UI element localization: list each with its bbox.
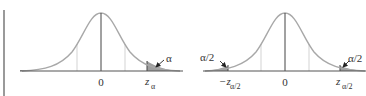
center-label: 0 <box>282 76 288 88</box>
z-alpha-label: z <box>144 75 150 87</box>
normal-distribution-figures: 0 z α α 0 −z α/2 z α/2 α/2 α/2 <box>0 0 366 96</box>
two-tailed-normal-curve: 0 −z α/2 z α/2 α/2 α/2 <box>200 13 366 91</box>
pos-z-label: z <box>335 75 341 87</box>
right-area-label: α/2 <box>348 52 362 64</box>
center-label: 0 <box>98 76 104 88</box>
left-area-label: α/2 <box>200 51 214 63</box>
left-alpha-arrow-icon <box>220 61 226 67</box>
one-tailed-normal-curve: 0 z α α <box>20 13 183 91</box>
pos-z-subscript: α/2 <box>342 82 352 91</box>
alpha-area-label: α <box>166 52 172 64</box>
neg-z-subscript: α/2 <box>230 82 240 91</box>
alpha-arrow-icon <box>156 60 164 67</box>
z-alpha-subscript: α <box>151 82 156 91</box>
